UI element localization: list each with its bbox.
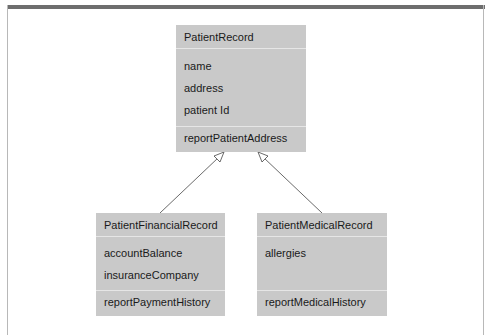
method: reportMedicalHistory — [257, 291, 387, 315]
generalization-arrow-financial — [160, 152, 224, 213]
method: reportPaymentHistory — [96, 291, 225, 315]
attributes-section: name address patient Id — [176, 49, 306, 127]
class-patient-record: PatientRecord name address patient Id re… — [176, 25, 306, 152]
attributes-section: allergies — [257, 237, 387, 291]
attribute: allergies — [265, 242, 387, 264]
class-patient-financial-record: PatientFinancialRecord accountBalance in… — [96, 213, 225, 316]
generalization-arrow-medical — [258, 152, 322, 213]
attribute: insuranceCompany — [104, 264, 225, 286]
attribute: accountBalance — [104, 242, 225, 264]
class-name: PatientMedicalRecord — [257, 213, 387, 237]
class-name: PatientFinancialRecord — [96, 213, 225, 237]
method: reportPatientAddress — [176, 127, 306, 151]
class-name: PatientRecord — [176, 25, 306, 49]
class-patient-medical-record: PatientMedicalRecord allergies reportMed… — [257, 213, 387, 316]
attribute: name — [184, 55, 306, 77]
attribute: address — [184, 77, 306, 99]
attribute: patient Id — [184, 99, 306, 121]
attributes-section: accountBalance insuranceCompany — [96, 237, 225, 291]
